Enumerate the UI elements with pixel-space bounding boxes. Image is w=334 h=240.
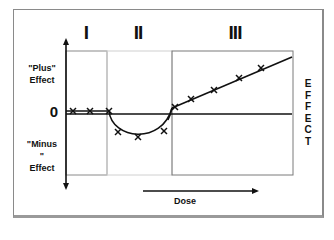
effect-axis-label: E F F E C T xyxy=(302,78,314,147)
minus-label-line3: Effect xyxy=(20,162,64,174)
minus-label-line2: " xyxy=(20,150,64,162)
effect-letter: F xyxy=(302,90,314,102)
region-i-box xyxy=(66,51,107,175)
minus-effect-label: "Minus " Effect xyxy=(20,138,64,174)
dose-label: Dose xyxy=(170,197,200,206)
x-marker-icon xyxy=(161,128,167,134)
region-i-label: I xyxy=(78,23,94,42)
effect-letter: C xyxy=(302,124,314,136)
minus-label-line1: "Minus xyxy=(20,138,64,150)
region-iii-label: III xyxy=(220,23,250,42)
effect-letter: E xyxy=(302,78,314,90)
region-iii-box xyxy=(172,51,293,175)
data-markers xyxy=(70,65,264,140)
plus-effect-label: "Plus" Effect xyxy=(22,62,62,86)
effect-letter: E xyxy=(302,113,314,125)
dose-arrow-icon xyxy=(143,188,259,194)
plus-label-line1: "Plus" xyxy=(22,62,62,74)
effect-letter: F xyxy=(302,101,314,113)
x-marker-icon xyxy=(115,129,121,135)
region-ii-box xyxy=(107,51,172,175)
effect-letter: T xyxy=(302,136,314,148)
zero-label: 0 xyxy=(47,104,61,119)
plus-label-line2: Effect xyxy=(22,74,62,86)
region-ii-label: II xyxy=(126,23,150,42)
